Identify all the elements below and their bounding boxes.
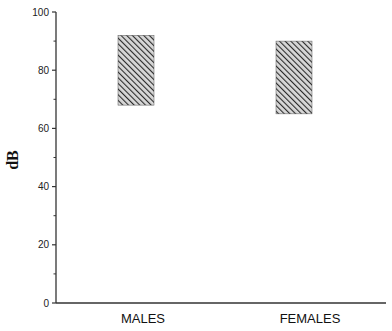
y-tick-label: 100 bbox=[32, 7, 49, 18]
axes bbox=[56, 12, 386, 303]
range-bar-males bbox=[118, 35, 154, 105]
y-tick-label: 60 bbox=[38, 123, 50, 134]
y-ticks: 020406080100 bbox=[32, 7, 56, 309]
x-category-labels: MALESFEMALES bbox=[121, 311, 341, 326]
range-bar-females bbox=[276, 41, 312, 114]
y-tick-label: 0 bbox=[43, 298, 49, 309]
y-axis-title: dB bbox=[4, 150, 21, 170]
x-category-label-females: FEMALES bbox=[280, 311, 341, 326]
y-tick-label: 40 bbox=[38, 181, 50, 192]
y-tick-label: 80 bbox=[38, 65, 50, 76]
range-bar-chart: dB 020406080100 MALESFEMALES bbox=[0, 0, 392, 331]
range-bars bbox=[118, 35, 312, 114]
x-category-label-males: MALES bbox=[121, 311, 165, 326]
y-tick-label: 20 bbox=[38, 239, 50, 250]
